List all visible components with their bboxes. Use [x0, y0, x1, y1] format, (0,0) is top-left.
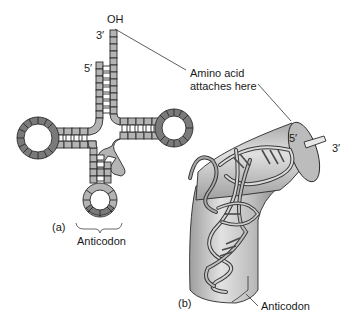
three-prime-label-b: 3′	[332, 143, 340, 154]
cloverleaf-structure	[17, 30, 193, 217]
five-prime-label-b: 5′	[289, 133, 297, 144]
t-loop	[155, 109, 193, 147]
callout-line1: Amino acid	[190, 68, 257, 79]
d-arm-base-pairs	[58, 135, 87, 141]
d-loop	[17, 117, 59, 159]
panel-b-label: (b)	[178, 298, 191, 309]
t-arm-base-pairs	[122, 125, 159, 132]
three-prime-label-a: 3′	[96, 30, 104, 41]
callout-line2: attaches here	[190, 81, 257, 92]
callout-line-a	[115, 29, 186, 70]
acceptor-stem-5prime	[96, 62, 103, 118]
d-arm-connector	[88, 118, 103, 135]
anticodon-bracket-a	[76, 223, 122, 233]
callout-line-b	[258, 84, 291, 121]
acceptor-base-pairs	[103, 66, 110, 113]
panel-a-label: (a)	[52, 222, 65, 233]
anticodon-loop	[83, 183, 117, 217]
anticodon-label-a: Anticodon	[77, 236, 126, 247]
callout-amino-acid: Amino acid attaches here	[190, 68, 257, 92]
trna-diagram	[0, 0, 359, 323]
hydroxyl-label: OH	[107, 14, 124, 25]
acceptor-stem-3prime	[110, 30, 117, 114]
t-arm-connector	[110, 114, 120, 125]
five-prime-label-a: 5′	[84, 63, 92, 74]
anticodon-label-b: Anticodon	[261, 301, 310, 312]
trna-3d-structure	[190, 119, 326, 306]
